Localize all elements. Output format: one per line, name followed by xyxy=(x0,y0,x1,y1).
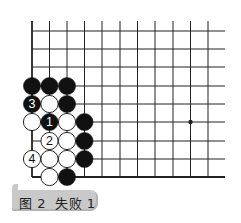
black-stone xyxy=(76,150,93,167)
stones-layer: 3124 xyxy=(23,77,93,185)
white-stone xyxy=(58,132,75,149)
move-number: 3 xyxy=(29,97,36,111)
move-number: 2 xyxy=(46,134,53,148)
white-stone xyxy=(58,150,75,167)
white-stone xyxy=(23,113,40,130)
white-stone xyxy=(41,168,58,185)
move-number: 4 xyxy=(29,152,36,166)
white-stone-2: 2 xyxy=(41,132,58,149)
diagram-caption: 图 2 失败 1 xyxy=(19,193,96,212)
move-number: 1 xyxy=(46,115,53,129)
black-stone xyxy=(76,132,93,149)
black-stone xyxy=(41,77,58,94)
black-stone-1: 1 xyxy=(41,113,58,130)
hoshi-point xyxy=(188,120,192,124)
black-stone-3: 3 xyxy=(23,95,40,112)
black-stone xyxy=(76,113,93,130)
white-stone xyxy=(58,113,75,130)
white-stone xyxy=(41,150,58,167)
hoshi-points xyxy=(188,120,192,124)
white-stone-4: 4 xyxy=(23,150,40,167)
black-stone xyxy=(23,77,40,94)
white-stone xyxy=(41,95,58,112)
black-stone xyxy=(58,77,75,94)
black-stone xyxy=(58,95,75,112)
black-stone xyxy=(58,168,75,185)
